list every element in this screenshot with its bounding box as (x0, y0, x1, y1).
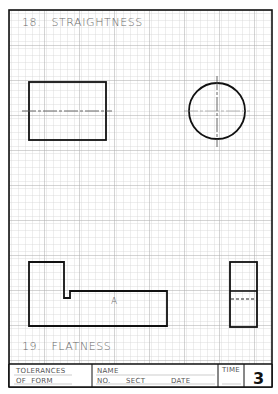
problem-18-number: 18. (22, 16, 41, 29)
time-field-label: TIME (221, 366, 240, 374)
number-field-label: NO. (97, 377, 111, 385)
subject-line-1: TOLERANCES (15, 367, 66, 375)
problem-18-heading: 18. STRAIGHTNESS (22, 16, 143, 29)
sheet-number: 3 (253, 369, 264, 388)
problem-19-number: 19. (22, 340, 41, 353)
grid-background (9, 10, 272, 364)
problem-19-title: FLATNESS (51, 340, 111, 353)
drawing-sheet: 18. STRAIGHTNESS A 19. FLATNESS (0, 0, 278, 394)
title-block: TOLERANCES OF FORM NAME NO. SECT DATE TI… (9, 364, 272, 388)
problem-19-heading: 19. FLATNESS (22, 340, 111, 353)
name-field-label: NAME (97, 367, 119, 375)
date-field-label: DATE (171, 377, 190, 385)
subject-line-2: OF FORM (16, 377, 53, 385)
surface-label-a: A (111, 296, 118, 306)
problem-18-title: STRAIGHTNESS (51, 16, 143, 29)
section-field-label: SECT (126, 377, 146, 385)
